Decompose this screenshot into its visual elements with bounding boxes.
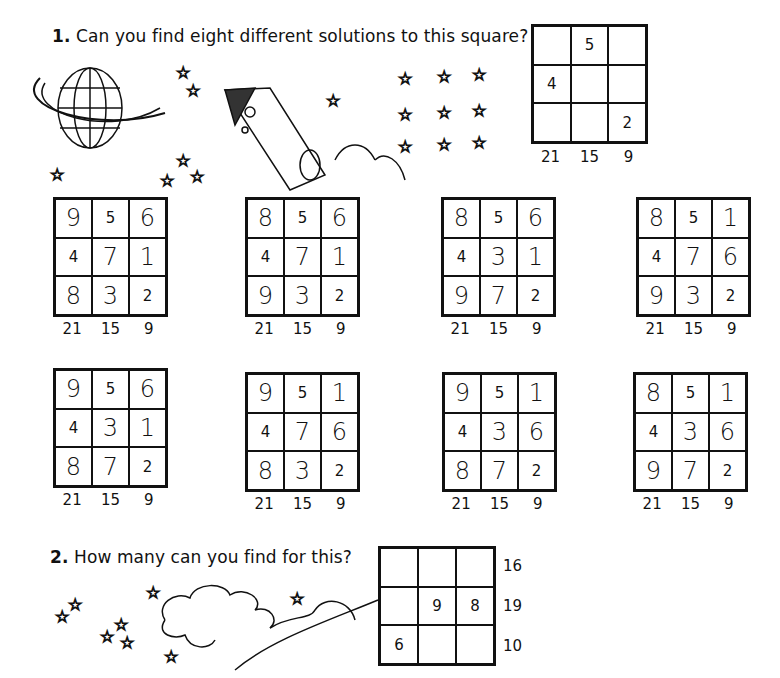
svg-text:☆: ☆ (176, 151, 190, 170)
svg-text:☆: ☆ (398, 137, 412, 156)
cloud-icon (150, 580, 380, 670)
svg-text:☆: ☆ (437, 135, 451, 154)
svg-text:☆: ☆ (472, 65, 486, 84)
stars-decoration: ☆☆ ☆ ☆☆☆ ☆☆☆ ☆☆☆ ☆☆☆☆ ☆☆ ☆ ☆☆☆ ☆ ☆ (0, 0, 780, 678)
svg-text:☆: ☆ (472, 133, 486, 152)
svg-text:☆: ☆ (326, 91, 340, 110)
svg-text:☆: ☆ (398, 69, 412, 88)
svg-text:☆: ☆ (114, 615, 128, 634)
svg-text:☆: ☆ (120, 633, 134, 652)
svg-text:☆: ☆ (190, 167, 204, 186)
svg-text:☆: ☆ (68, 595, 82, 614)
svg-text:☆: ☆ (437, 103, 451, 122)
svg-text:☆: ☆ (50, 165, 64, 184)
svg-text:☆: ☆ (160, 171, 174, 190)
svg-text:☆: ☆ (472, 101, 486, 120)
svg-text:☆: ☆ (176, 63, 190, 82)
svg-text:☆: ☆ (100, 627, 114, 646)
svg-text:☆: ☆ (398, 105, 412, 124)
svg-text:☆: ☆ (186, 81, 200, 100)
svg-text:☆: ☆ (437, 67, 451, 86)
